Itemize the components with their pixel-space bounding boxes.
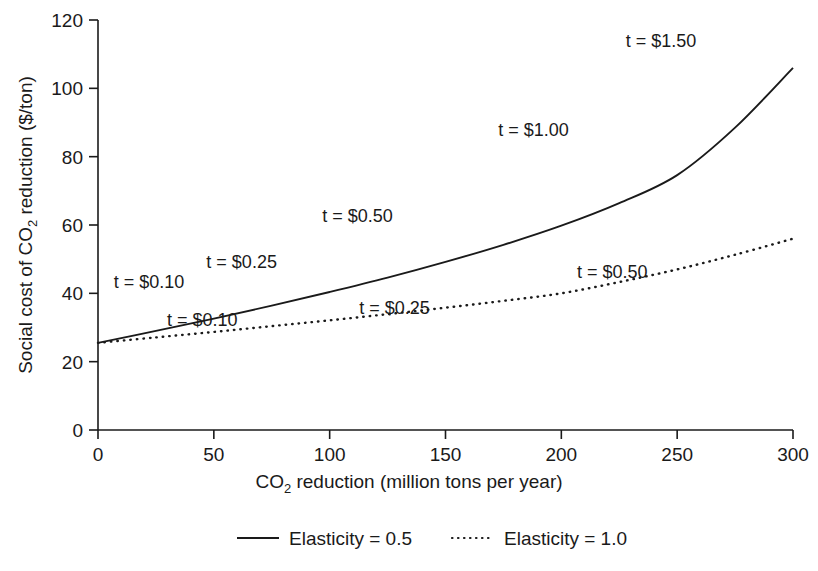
series-annotation: t = $0.25 xyxy=(206,252,277,272)
series-annotation: t = $1.00 xyxy=(498,120,569,140)
x-tick-label: 0 xyxy=(93,444,104,465)
y-tick-label: 60 xyxy=(62,215,83,236)
x-tick-label: 150 xyxy=(430,444,462,465)
social-cost-co2-reduction-chart: 020406080100120 050100150200250300 t = $… xyxy=(0,0,818,571)
y-tick-label: 120 xyxy=(51,10,83,31)
series-annotation: t = $0.10 xyxy=(114,272,185,292)
axis-title-text: CO xyxy=(255,471,284,492)
axis-title-subscript: 2 xyxy=(284,481,291,496)
x-tick-label: 200 xyxy=(545,444,577,465)
series-annotation: t = $1.50 xyxy=(626,31,697,51)
x-tick-label: 300 xyxy=(777,444,809,465)
series-annotation: t = $0.10 xyxy=(167,310,238,330)
axis-title-text: reduction ($/ton) xyxy=(15,76,36,220)
y-tick-label: 40 xyxy=(62,283,83,304)
axis-title-text: reduction (million tons per year) xyxy=(291,471,562,492)
series-annotation: t = $0.25 xyxy=(359,298,430,318)
axis-title-text: Social cost of CO xyxy=(15,227,36,374)
y-tick-label: 20 xyxy=(62,352,83,373)
axis-title-subscript: 2 xyxy=(25,220,40,227)
legend-label-2: Elasticity = 1.0 xyxy=(504,528,627,549)
x-tick-label: 50 xyxy=(203,444,224,465)
legend-label-1: Elasticity = 0.5 xyxy=(289,528,412,549)
x-tick-label: 100 xyxy=(314,444,346,465)
y-tick-label: 0 xyxy=(72,420,83,441)
series-annotation: t = $0.50 xyxy=(322,206,393,226)
x-tick-label: 250 xyxy=(661,444,693,465)
y-tick-label: 100 xyxy=(51,78,83,99)
chart-figure: 020406080100120 050100150200250300 t = $… xyxy=(0,0,818,571)
y-tick-label: 80 xyxy=(62,147,83,168)
series-annotation: t = $0.50 xyxy=(577,262,648,282)
